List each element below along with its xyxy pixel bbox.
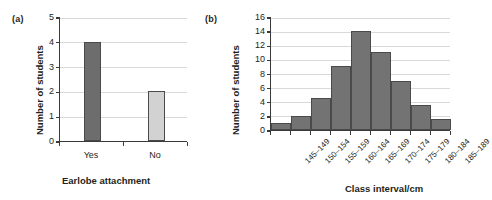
- bar: [431, 119, 451, 130]
- y-tick-label: 16: [251, 12, 265, 22]
- gridline: [60, 92, 187, 93]
- x-tick-mark: [350, 131, 351, 135]
- x-category-label: No: [130, 150, 180, 160]
- x-tick-mark: [123, 142, 124, 146]
- y-tick-label: 14: [251, 26, 265, 36]
- x-tick-mark: [310, 131, 311, 135]
- panel-a: (a) Number of students Earlobe attachmen…: [0, 0, 200, 200]
- bar: [351, 31, 371, 130]
- y-tick-label: 5: [41, 12, 54, 22]
- y-tick-mark: [267, 60, 271, 61]
- bar: [148, 91, 165, 141]
- y-tick-mark: [267, 74, 271, 75]
- x-tick-mark: [390, 131, 391, 135]
- x-tick-mark: [270, 131, 271, 135]
- x-tick-mark: [59, 142, 60, 146]
- x-tick-mark: [430, 131, 431, 135]
- y-tick-mark: [267, 102, 271, 103]
- y-tick-mark: [56, 17, 60, 18]
- panel-a-tag: (a): [12, 14, 24, 24]
- panel-b-tag: (b): [205, 14, 217, 24]
- y-tick-mark: [267, 116, 271, 117]
- y-tick-label: 2: [251, 111, 265, 121]
- panel-b-y-axis-label: Number of students: [230, 45, 241, 135]
- y-tick-label: 0: [251, 125, 265, 135]
- y-tick-label: 12: [251, 40, 265, 50]
- bar: [411, 105, 431, 130]
- gridline: [60, 42, 187, 43]
- panel-a-x-axis-label: Earlobe attachment: [62, 175, 150, 186]
- gridline: [60, 117, 187, 118]
- panel-a-plot-area: [59, 18, 187, 142]
- x-tick-mark: [290, 131, 291, 135]
- x-tick-mark: [450, 131, 451, 135]
- y-tick-mark: [56, 67, 60, 68]
- bar: [271, 123, 291, 130]
- y-tick-label: 3: [41, 62, 54, 72]
- y-tick-mark: [56, 92, 60, 93]
- panel-b-plot-area: [270, 18, 450, 131]
- y-tick-mark: [267, 17, 271, 18]
- panel-b-x-axis-label: Class interval/cm: [345, 183, 423, 194]
- x-tick-mark: [187, 142, 188, 146]
- gridline: [60, 18, 187, 19]
- y-tick-mark: [56, 117, 60, 118]
- y-tick-label: 10: [251, 54, 265, 64]
- y-tick-mark: [56, 42, 60, 43]
- y-tick-label: 1: [41, 111, 54, 121]
- y-tick-mark: [267, 31, 271, 32]
- y-tick-label: 4: [251, 97, 265, 107]
- x-tick-mark: [370, 131, 371, 135]
- x-tick-mark: [330, 131, 331, 135]
- bar: [311, 98, 331, 130]
- gridline: [60, 67, 187, 68]
- y-tick-label: 0: [41, 136, 54, 146]
- x-tick-mark: [410, 131, 411, 135]
- gridline: [271, 18, 450, 19]
- x-category-label: Yes: [66, 150, 116, 160]
- y-tick-label: 4: [41, 37, 54, 47]
- bar: [331, 66, 351, 130]
- y-tick-label: 2: [41, 86, 54, 96]
- bar: [291, 116, 311, 130]
- y-tick-mark: [267, 88, 271, 89]
- y-tick-mark: [267, 46, 271, 47]
- bar: [391, 81, 411, 130]
- y-tick-label: 6: [251, 83, 265, 93]
- bar: [84, 42, 101, 141]
- panel-b: (b) Number of students Class interval/cm…: [200, 0, 474, 200]
- y-tick-label: 8: [251, 69, 265, 79]
- bar: [371, 52, 391, 130]
